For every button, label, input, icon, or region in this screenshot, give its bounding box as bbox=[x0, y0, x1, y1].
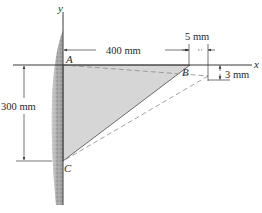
dimension-5mm-label: 5 mm bbox=[185, 31, 209, 42]
wall-support bbox=[52, 30, 63, 205]
x-axis-label: x bbox=[253, 58, 259, 70]
dimension-300mm bbox=[16, 66, 52, 161]
deformation-diagram: x y A B C 400 mm 5 mm 3 mm 300 mm bbox=[0, 0, 262, 213]
point-a-label: A bbox=[65, 53, 73, 65]
triangle-plate bbox=[63, 65, 190, 161]
y-axis-label: y bbox=[57, 2, 63, 14]
point-c-label: C bbox=[64, 162, 72, 174]
dimension-400mm-label: 400 mm bbox=[106, 45, 141, 56]
point-b-label: B bbox=[182, 66, 189, 78]
dimension-300mm-label: 300 mm bbox=[1, 101, 36, 112]
dimension-3mm-label: 3 mm bbox=[225, 69, 249, 80]
